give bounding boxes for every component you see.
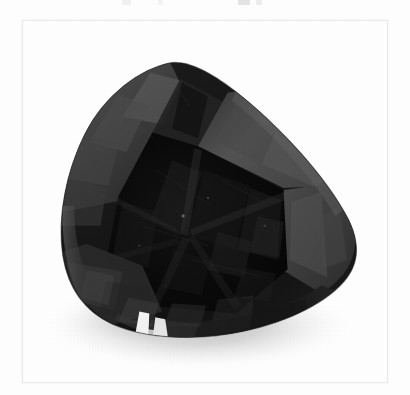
- crop-artifact-mark: [238, 0, 250, 5]
- crop-artifact-mark: [122, 0, 131, 5]
- cropped-text-remnant: [0, 0, 410, 8]
- photo-stage: Photograph of a dark faceted pear-cut ge…: [23, 21, 387, 382]
- crop-artifact-mark: [158, 0, 163, 5]
- photo-card: Photograph of a dark faceted pear-cut ge…: [22, 20, 388, 383]
- gemstone-photo: [23, 21, 387, 382]
- crop-artifact-mark: [256, 0, 262, 5]
- page-root: Photograph of a dark faceted pear-cut ge…: [0, 0, 410, 395]
